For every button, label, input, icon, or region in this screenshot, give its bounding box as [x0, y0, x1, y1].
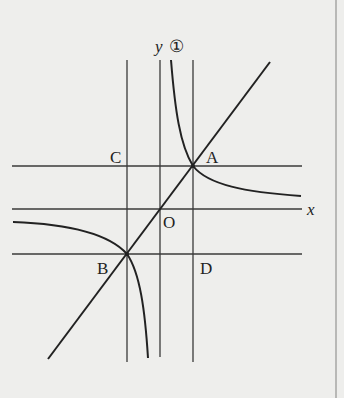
- x-axis-label: x: [307, 201, 315, 218]
- curve-1-label: ①: [169, 38, 184, 55]
- origin-label: O: [163, 214, 175, 231]
- y-axis-label: y: [155, 38, 163, 55]
- point-c-label: C: [110, 149, 121, 166]
- figure: y ① x O A B C D: [0, 0, 344, 398]
- straight-line: [48, 62, 270, 359]
- point-a-dot: [191, 164, 195, 168]
- graph-canvas: [0, 0, 344, 398]
- curve-1-upper-branch: [171, 60, 301, 196]
- point-b-dot: [125, 252, 129, 256]
- curve-1-lower-branch: [13, 222, 148, 358]
- point-d-label: D: [200, 260, 212, 277]
- point-a-label: A: [206, 149, 218, 166]
- point-b-label: B: [97, 260, 108, 277]
